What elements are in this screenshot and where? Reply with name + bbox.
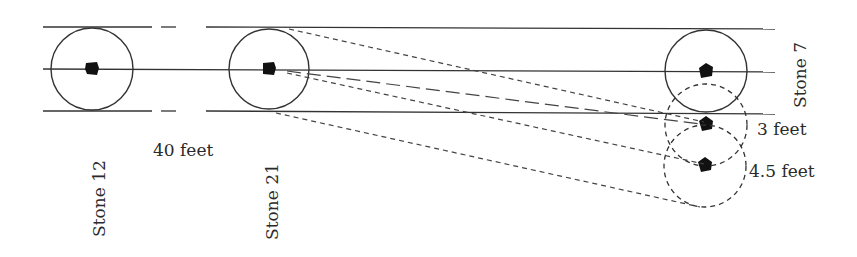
stone-12-label: Stone 12 <box>89 160 109 237</box>
position-3-feet-marker-icon <box>699 116 713 131</box>
distance-label-40-feet: 40 feet <box>153 140 213 160</box>
position-4-5-feet-marker-icon <box>698 157 712 172</box>
sight-line-center <box>287 73 704 164</box>
sight-line-bottom <box>276 113 700 207</box>
offset-label-4-5-feet: 4.5 feet <box>749 161 815 181</box>
bottom-guide-line <box>43 111 775 114</box>
position-4-5-feet <box>664 125 746 207</box>
top-guide-line <box>43 27 775 29</box>
stone-7-marker-icon <box>699 63 713 78</box>
stone-21-marker-icon <box>263 62 276 75</box>
stone-12-marker-icon <box>85 62 99 75</box>
sight-line-top <box>289 29 704 122</box>
stone-21-label: Stone 21 <box>262 163 282 240</box>
stone-21 <box>229 29 309 109</box>
stone-7-label: Stone 7 <box>790 42 810 108</box>
stone-alignment-diagram: 40 feet 3 feet 4.5 feet Stone 12 Stone 2… <box>0 0 857 257</box>
offset-label-3-feet: 3 feet <box>757 119 807 139</box>
sight-line-long-dash <box>287 71 700 124</box>
sight-lines <box>276 29 704 207</box>
